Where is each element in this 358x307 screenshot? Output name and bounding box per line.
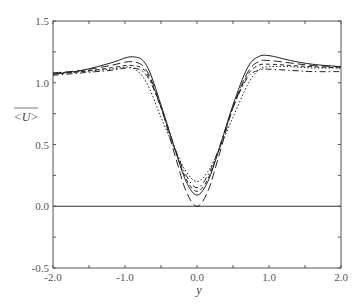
- plot-border: [53, 21, 341, 268]
- series-layer: [53, 55, 341, 206]
- y-tick-label: -0.5: [32, 262, 50, 274]
- series-line-solid: [53, 55, 341, 195]
- series-line-dotted: [53, 66, 341, 181]
- plot-frame: [53, 21, 341, 268]
- svg-text:<U>: <U>: [14, 110, 39, 124]
- axis-ticks: -2.0-1.00.01.02.0-0.50.00.51.01.5: [32, 15, 349, 283]
- y-axis-label: <U>: [14, 108, 39, 124]
- series-line-dash-dot: [53, 68, 341, 188]
- x-tick-label: -1.0: [116, 271, 134, 283]
- x-tick-label: 2.0: [334, 271, 348, 283]
- y-tick-label: 1.5: [35, 15, 49, 27]
- series-line-long-dash: [53, 60, 341, 206]
- y-tick-label: 0.0: [35, 200, 49, 212]
- y-tick-label: 0.5: [35, 139, 49, 151]
- x-tick-label: 1.0: [262, 271, 276, 283]
- series-line-short-dash: [53, 64, 341, 191]
- y-tick-label: 1.0: [35, 77, 49, 89]
- x-axis-label: y: [195, 283, 202, 297]
- x-tick-label: 0.0: [190, 271, 204, 283]
- velocity-profile-chart: -2.0-1.00.01.02.0-0.50.00.51.01.5 y <U>: [0, 0, 358, 307]
